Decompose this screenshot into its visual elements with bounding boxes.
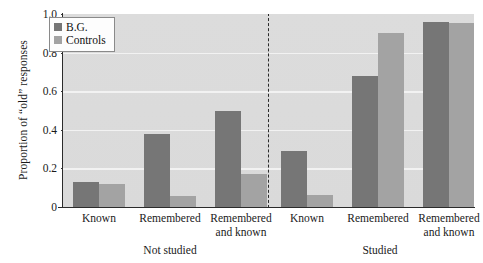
x-category-label-studied-remembered: Remembered — [347, 212, 408, 226]
x-category-label-notstudied-known: Known — [82, 212, 116, 226]
plot-area — [62, 14, 474, 207]
bar-chart-figure: Proportion of “old” responses 1.0 0.8 0.… — [0, 0, 483, 263]
legend-label: B.G. — [66, 21, 88, 34]
y-tick-label: 0.2 — [29, 162, 57, 174]
x-category-label-notstudied-remembered: Remembered — [139, 212, 200, 226]
y-tick-label: 0 — [29, 201, 57, 213]
x-category-label-studied-known: Known — [290, 212, 324, 226]
y-tick-label: 0.4 — [29, 124, 57, 136]
legend-swatch-icon — [54, 23, 62, 31]
x-category-line: and known — [210, 226, 271, 240]
x-category-line: and known — [418, 226, 479, 240]
bar-bg-studied-remembered-and-known — [423, 22, 449, 207]
x-category-line: Known — [82, 212, 116, 226]
bar-bg-studied-known — [281, 151, 307, 207]
x-axis-line — [62, 207, 475, 208]
x-category-line: Remembered — [347, 212, 408, 226]
bar-ctrl-notstudied-remembered — [170, 196, 196, 207]
legend-item-controls: Controls — [54, 34, 106, 47]
group-divider-dashed-line — [268, 14, 269, 207]
legend-label: Controls — [66, 34, 106, 47]
bar-bg-studied-remembered — [352, 76, 378, 207]
bar-bg-notstudied-known — [73, 182, 99, 207]
bar-ctrl-studied-known — [307, 195, 333, 208]
x-category-line: Known — [290, 212, 324, 226]
legend-item-bg: B.G. — [54, 21, 106, 34]
bar-ctrl-notstudied-known — [99, 184, 125, 207]
bar-bg-notstudied-remembered — [144, 134, 170, 207]
x-category-line: Remembered — [139, 212, 200, 226]
bar-ctrl-studied-remembered-and-known — [449, 23, 474, 207]
y-tick-label: 0.6 — [29, 85, 57, 97]
legend: B.G. Controls — [49, 17, 115, 52]
x-group-label-not-studied: Not studied — [143, 244, 196, 256]
x-category-line: Remembered — [210, 212, 271, 226]
bar-ctrl-studied-remembered — [378, 33, 404, 207]
x-category-line: Remembered — [418, 212, 479, 226]
x-group-label-studied: Studied — [362, 244, 397, 256]
x-category-label-notstudied-remembered-and-known: Remembered and known — [210, 212, 271, 239]
bar-bg-notstudied-remembered-and-known — [215, 111, 241, 208]
bar-ctrl-notstudied-remembered-and-known — [241, 174, 267, 207]
x-category-label-studied-remembered-and-known: Remembered and known — [418, 212, 479, 239]
legend-swatch-icon — [54, 36, 62, 44]
y-tick-mark — [58, 207, 63, 208]
